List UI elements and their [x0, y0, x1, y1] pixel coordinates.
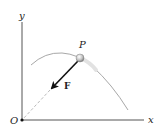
point-p-label: P	[78, 39, 86, 50]
y-axis-label: y	[18, 10, 25, 21]
x-axis-label: x	[148, 114, 154, 125]
particle-p	[76, 54, 84, 62]
force-label: F	[64, 81, 71, 91]
line-of-action-dashed	[23, 90, 50, 119]
origin-point	[20, 118, 23, 121]
diagram-canvas: y x O P F	[0, 0, 162, 135]
origin-label: O	[10, 115, 18, 126]
